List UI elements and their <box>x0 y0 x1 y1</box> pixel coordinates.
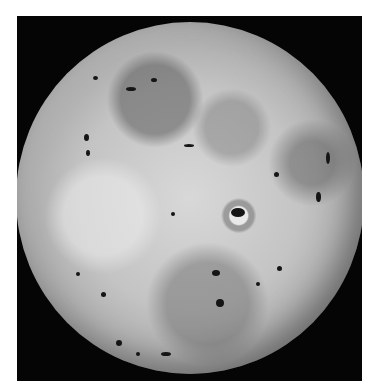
dark-spot <box>277 266 282 271</box>
dark-spot <box>184 144 194 147</box>
dark-spot <box>231 208 245 217</box>
photo-frame <box>17 16 362 381</box>
dark-spot <box>136 352 140 356</box>
dark-spot <box>116 340 122 346</box>
dark-spot <box>161 352 171 356</box>
dark-spot <box>126 87 136 91</box>
dark-spot <box>216 299 224 307</box>
dark-spot <box>316 192 321 202</box>
dark-spot <box>256 282 260 286</box>
dark-spot <box>84 134 89 141</box>
dark-spot <box>326 152 330 164</box>
dark-spot <box>274 172 279 177</box>
dark-spot <box>101 292 106 297</box>
dark-spot <box>93 76 98 80</box>
dark-spot <box>86 150 90 156</box>
moon-disk <box>17 22 362 374</box>
dark-spot <box>76 272 80 276</box>
dark-spot <box>151 78 157 82</box>
dark-spot <box>212 270 220 276</box>
dark-spot <box>171 212 175 216</box>
